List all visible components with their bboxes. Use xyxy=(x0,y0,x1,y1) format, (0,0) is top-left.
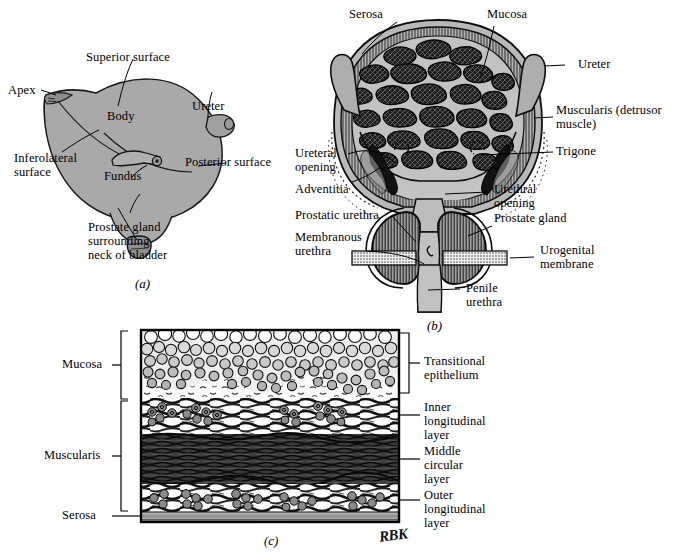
label-membranous-line1: Membranous xyxy=(295,231,362,245)
artist-signature: RBK xyxy=(378,525,408,545)
label-superior-surface: Superior surface xyxy=(86,51,170,65)
label-prostatic-urethra: Prostatic urethra xyxy=(295,209,379,223)
label-urethral-opening-line2: opening xyxy=(494,197,535,211)
label-ureter-a: Ureter xyxy=(192,100,225,114)
label-serosa-b: Serosa xyxy=(349,8,383,22)
label-fundus: Fundus xyxy=(104,170,141,184)
panel-caption-c: (c) xyxy=(264,533,278,549)
label-outer-line2: longitudinal xyxy=(424,503,486,517)
label-posterior-surface: Posterior surface xyxy=(185,156,271,170)
label-middle-line1: Middle xyxy=(424,445,461,459)
label-outer-line3: layer xyxy=(424,517,449,531)
label-inner-line2: longitudinal xyxy=(424,415,486,429)
label-serosa-c: Serosa xyxy=(62,509,96,523)
label-muscularis-line2: muscle) xyxy=(556,118,596,132)
panel-caption-a: (a) xyxy=(135,276,150,292)
label-prostate-a-line1: Prostate gland xyxy=(88,221,161,235)
label-inferolateral-line1: Inferolateral xyxy=(14,152,77,166)
label-middle-line2: circular xyxy=(424,459,463,473)
label-body: Body xyxy=(107,110,135,124)
label-prostate-gland-b: Prostate gland xyxy=(494,212,567,226)
label-inner-line3: layer xyxy=(424,429,449,443)
label-prostate-a-line3: neck of bladder xyxy=(88,249,167,263)
serosa-band xyxy=(141,512,399,520)
label-ureteral-opening-line1: Ureteral xyxy=(295,147,337,161)
label-membranous-line2: urethra xyxy=(295,245,331,259)
panel-c-drawing xyxy=(112,327,420,523)
label-mucosa-c: Mucosa xyxy=(62,358,102,372)
label-urethral-opening-line1: Urethral xyxy=(494,183,536,197)
label-penile-line1: Penile xyxy=(466,282,498,296)
label-muscularis-line1: Muscularis (detrusor xyxy=(556,104,662,118)
label-transitional-line2: epithelium xyxy=(424,369,478,383)
prostate-lobe-left xyxy=(372,212,420,284)
label-ureter-b: Ureter xyxy=(578,58,611,72)
label-outer-line1: Outer xyxy=(424,489,453,503)
panel-caption-b: (b) xyxy=(427,318,442,334)
label-adventitia: Adventitia xyxy=(295,183,349,197)
label-penile-line2: urethra xyxy=(466,296,502,310)
label-transitional-line1: Transitional xyxy=(424,355,485,369)
figure-canvas xyxy=(0,0,678,557)
panel-b-drawing xyxy=(329,20,565,312)
label-inner-line1: Inner xyxy=(424,401,451,415)
label-urogenital-line1: Urogenital xyxy=(540,244,594,258)
panel-c-right-brackets xyxy=(399,333,420,500)
panel-c-left-brackets xyxy=(112,331,141,516)
label-urogenital-line2: membrane xyxy=(540,258,594,272)
prostate-lobe-right xyxy=(438,212,486,284)
penile-urethra xyxy=(417,265,441,312)
label-prostate-a-line2: surrounding xyxy=(88,235,150,249)
label-muscularis-c: Muscularis xyxy=(44,449,101,463)
label-apex: Apex xyxy=(8,84,35,98)
label-ureteral-opening-line2: opening xyxy=(295,161,336,175)
label-inferolateral-line2: surface xyxy=(14,166,51,180)
label-trigone: Trigone xyxy=(556,145,596,159)
label-middle-line3: layer xyxy=(424,473,449,487)
label-mucosa-b: Mucosa xyxy=(487,8,527,22)
